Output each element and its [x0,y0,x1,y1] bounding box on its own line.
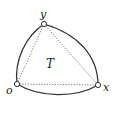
label-x: x [103,81,110,94]
curved-triangle-diagram: y o x T [0,0,117,116]
vertex-o [14,81,19,86]
curved-edge-o-x [17,84,98,95]
label-o: o [6,84,13,97]
vertex-y [41,21,46,26]
vertex-x [95,82,100,87]
diagram-canvas: y o x T [0,0,117,116]
dotted-edge-o-x [17,84,98,85]
region-label-t: T [46,57,55,71]
label-y: y [39,8,47,21]
